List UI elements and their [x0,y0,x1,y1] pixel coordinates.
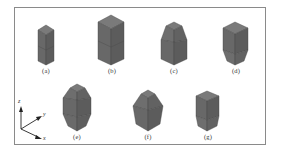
panel-label-b: (b) [108,67,116,74]
shape-b-rectangular-prism [98,15,124,65]
shape-c-tapered-top-prism [161,22,187,65]
panel-label-e: (e) [73,133,81,140]
panel-label-g: (g) [204,133,212,140]
panel-label-c: (c) [170,67,178,74]
shape-d-tapered-bottom-prism [223,22,248,65]
axis-label-z: z [18,98,20,104]
shape-a-rectangular-prism [38,25,54,65]
axis-label-y: y [43,111,46,117]
panel-label-f: (f) [144,133,151,140]
shape-f-pointed-top-prism [133,90,163,131]
shapes-canvas [0,0,281,156]
axis-label-x: x [43,135,46,141]
panel-label-d: (d) [232,67,240,74]
panel-label-a: (a) [42,67,50,74]
shape-e-double-tapered-prism [63,84,91,131]
coordinate-axes-icon [19,106,42,139]
shape-g-bottom-chamfer-prism [196,91,219,131]
